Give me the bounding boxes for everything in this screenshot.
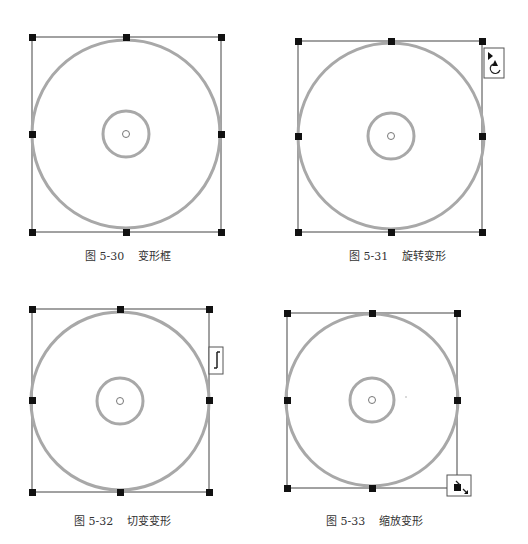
handle-right[interactable] (206, 397, 213, 404)
handle-left[interactable] (295, 133, 302, 140)
center-hole (388, 133, 395, 140)
handle-top[interactable] (117, 306, 124, 313)
handle-bottom-right[interactable] (479, 229, 486, 236)
figure-number: 图 5-31 (349, 250, 388, 263)
handle-top-left[interactable] (284, 310, 291, 317)
handle-bottom[interactable] (117, 489, 124, 496)
skew-cursor-icon (209, 347, 223, 374)
figure-title: 切变变形 (127, 515, 171, 528)
handle-top-right[interactable] (479, 38, 486, 45)
stray-dot (405, 396, 406, 397)
handle-left[interactable] (284, 397, 291, 404)
figure-5-31-graphic (295, 38, 504, 236)
outer-circle (32, 40, 220, 228)
handle-top-left[interactable] (29, 34, 36, 41)
handle-bottom-right[interactable] (218, 229, 225, 236)
handle-bottom-right[interactable] (206, 489, 213, 496)
inner-ring (97, 378, 143, 424)
handle-top-left[interactable] (295, 38, 302, 45)
handle-right[interactable] (454, 397, 461, 404)
handle-bottom-left[interactable] (284, 485, 291, 492)
handle-top-left[interactable] (29, 306, 36, 313)
caption-fig-5-31: 图 5-31旋转变形 (349, 247, 446, 263)
handle-bottom[interactable] (388, 229, 395, 236)
figure-title: 缩放变形 (379, 515, 423, 528)
handle-bottom[interactable] (369, 485, 376, 492)
figure-number: 图 5-32 (74, 515, 113, 528)
handle-bottom-left[interactable] (29, 229, 36, 236)
handle-left[interactable] (29, 397, 36, 404)
handle-top-right[interactable] (454, 310, 461, 317)
figure-title: 旋转变形 (402, 250, 446, 263)
figure-5-30-graphic (29, 34, 225, 236)
handle-right[interactable] (218, 131, 225, 138)
figure-5-33-graphic (284, 310, 471, 496)
handle-top[interactable] (369, 310, 376, 317)
figure-5-32-graphic (29, 306, 223, 496)
rotate-cursor-icon (484, 48, 504, 78)
handle-top-right[interactable] (218, 34, 225, 41)
inner-ring (350, 378, 394, 422)
handle-top[interactable] (123, 34, 130, 41)
handle-right[interactable] (479, 133, 486, 140)
center-hole (369, 397, 376, 404)
transform-figures-canvas (0, 0, 528, 544)
outer-circle (298, 43, 484, 229)
inner-ring (103, 111, 149, 157)
scale-cursor-icon (447, 475, 471, 496)
handle-top[interactable] (388, 38, 395, 45)
caption-fig-5-30: 图 5-30变形框 (85, 247, 171, 263)
outer-circle (31, 312, 209, 490)
handle-bottom-left[interactable] (29, 489, 36, 496)
outer-circle (286, 314, 458, 486)
figure-title: 变形框 (138, 250, 171, 263)
center-hole (117, 398, 124, 405)
caption-fig-5-33: 图 5-33缩放变形 (326, 512, 423, 528)
figure-number: 图 5-30 (85, 250, 124, 263)
caption-fig-5-32: 图 5-32切变变形 (74, 512, 171, 528)
center-hole (123, 131, 130, 138)
handle-bottom[interactable] (123, 229, 130, 236)
handle-top-right[interactable] (206, 306, 213, 313)
figure-number: 图 5-33 (326, 515, 365, 528)
inner-ring (368, 113, 414, 159)
handle-bottom-left[interactable] (295, 229, 302, 236)
handle-left[interactable] (29, 131, 36, 138)
